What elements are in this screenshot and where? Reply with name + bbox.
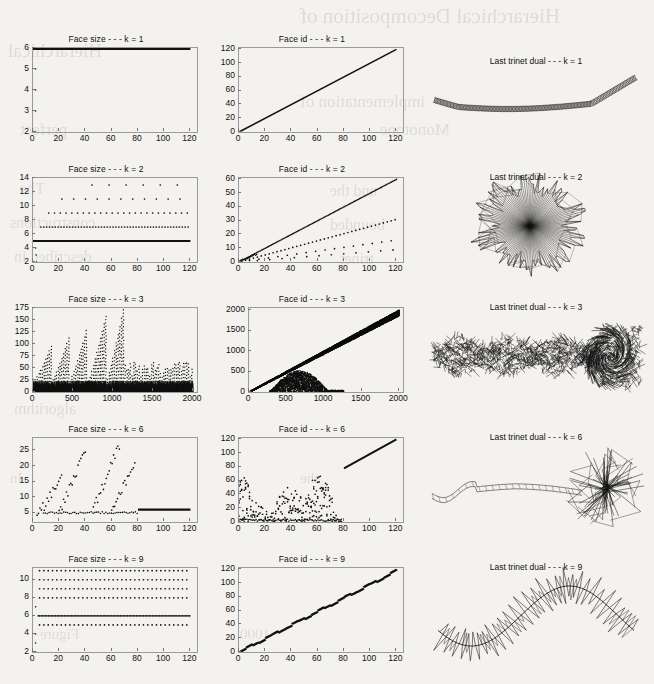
xtick-mark [317, 518, 318, 521]
ytick-mark [238, 596, 241, 597]
ytick-mark [32, 319, 35, 320]
xtick-mark [163, 128, 164, 131]
xtick-mark [189, 518, 190, 521]
xtick-mark [72, 388, 73, 391]
ytick-mark [238, 206, 241, 207]
ytick-mark [238, 452, 241, 453]
face-size-xtick-label: 1000 [96, 394, 128, 402]
face-id-ytick-label: 120 [212, 564, 235, 572]
ytick-mark [238, 261, 241, 262]
ytick-mark [238, 90, 241, 91]
xtick-mark [264, 648, 265, 651]
xtick-mark [317, 128, 318, 131]
face-size-title: Face size - - - k = 2 [6, 164, 206, 174]
face-size-ytick-label: 4 [6, 243, 29, 251]
figure-grid: Face size - - - k = 12345602040608010012… [0, 0, 654, 684]
ytick-mark [32, 379, 35, 380]
face-id-ytick-label: 80 [212, 71, 235, 79]
ytick-mark [32, 131, 35, 132]
face-size-ytick-label: 8 [6, 592, 29, 600]
trinet-dual-graphic [418, 294, 654, 412]
face-id-ytick-label: 40 [212, 489, 235, 497]
face-size-panel-k9: Face size - - - k = 92468100204060801001… [6, 554, 206, 672]
xtick-mark [32, 128, 33, 131]
ytick-mark [32, 261, 35, 262]
ytick-mark [238, 637, 241, 638]
xtick-mark [369, 648, 370, 651]
xtick-mark [238, 128, 239, 131]
face-id-xtick-label: 2000 [382, 394, 414, 402]
xtick-mark [152, 388, 153, 391]
face-id-title: Face id - - - k = 1 [212, 34, 412, 44]
ytick-mark [238, 76, 241, 77]
ytick-mark [238, 48, 241, 49]
xtick-mark [264, 518, 265, 521]
face-id-panel-k6: Face id - - - k = 6020406080100120020406… [212, 424, 412, 542]
xtick-mark [361, 388, 362, 391]
face-id-title: Face id - - - k = 3 [212, 294, 412, 304]
ytick-mark [238, 568, 241, 569]
trinet-dual-panel-k9: Last trinet dual - - - k = 9 [418, 554, 654, 672]
face-id-ytick-label: 60 [212, 85, 235, 93]
face-size-panel-k2: Face size - - - k = 22468101214020406080… [6, 164, 206, 282]
xtick-mark [137, 518, 138, 521]
xtick-mark [58, 128, 59, 131]
face-id-panel-k1: Face id - - - k = 1020406080100120020406… [212, 34, 412, 152]
face-id-ytick-label: 20 [212, 633, 235, 641]
xtick-mark [395, 518, 396, 521]
face-size-ytick-label: 25 [6, 445, 29, 453]
face-size-title: Face size - - - k = 6 [6, 424, 206, 434]
xtick-mark [32, 518, 33, 521]
face-size-xtick-label: 120 [173, 264, 205, 272]
face-id-xtick-label: 120 [379, 654, 411, 662]
xtick-mark [323, 388, 324, 391]
face-size-panel-k1: Face size - - - k = 12345602040608010012… [6, 34, 206, 152]
face-size-ytick-label: 14 [6, 173, 29, 181]
face-size-title: Face size - - - k = 9 [6, 554, 206, 564]
face-id-title: Face id - - - k = 9 [212, 554, 412, 564]
face-size-panel-k6: Face size - - - k = 65101520250204060801… [6, 424, 206, 542]
ytick-mark [238, 117, 241, 118]
face-id-ytick-label: 60 [212, 174, 235, 182]
xtick-mark [163, 518, 164, 521]
face-id-xtick-label: 0 [232, 394, 264, 402]
face-id-ytick-label: 40 [212, 201, 235, 209]
face-id-ytick-label: 100 [212, 578, 235, 586]
xtick-mark [238, 648, 239, 651]
face-size-xtick-label: 500 [56, 394, 88, 402]
xtick-mark [137, 128, 138, 131]
ytick-mark [32, 233, 35, 234]
face-size-ytick-label: 8 [6, 215, 29, 223]
xtick-mark [163, 648, 164, 651]
ytick-mark [32, 449, 35, 450]
trinet-dual-panel-k6: Last trinet dual - - - k = 6 [418, 424, 654, 542]
xtick-mark [317, 648, 318, 651]
face-id-axes [248, 307, 404, 393]
ytick-mark [32, 496, 35, 497]
ytick-mark [238, 521, 241, 522]
face-size-axes [32, 47, 198, 133]
face-id-ytick-label: 20 [212, 229, 235, 237]
face-id-xtick-label: 1000 [307, 394, 339, 402]
xtick-mark [189, 128, 190, 131]
ytick-mark [238, 192, 241, 193]
face-size-ytick-label: 5 [6, 507, 29, 515]
face-id-xtick-label: 120 [379, 264, 411, 272]
ytick-mark [32, 219, 35, 220]
face-id-ytick-label: 120 [212, 434, 235, 442]
xtick-mark [84, 518, 85, 521]
ytick-mark [32, 615, 35, 616]
face-size-xtick-label: 120 [173, 654, 205, 662]
face-size-ytick-label: 4 [6, 628, 29, 636]
ytick-mark [248, 371, 251, 372]
face-id-ytick-label: 60 [212, 475, 235, 483]
ytick-mark [32, 579, 35, 580]
face-size-xtick-label: 1500 [136, 394, 168, 402]
face-id-ytick-label: 20 [212, 503, 235, 511]
ytick-mark [248, 391, 251, 392]
xtick-mark [398, 388, 399, 391]
trinet-dual-graphic [418, 34, 654, 152]
face-id-xtick-label: 120 [379, 524, 411, 532]
face-size-ytick-label: 75 [6, 351, 29, 359]
face-size-ytick-label: 15 [6, 476, 29, 484]
